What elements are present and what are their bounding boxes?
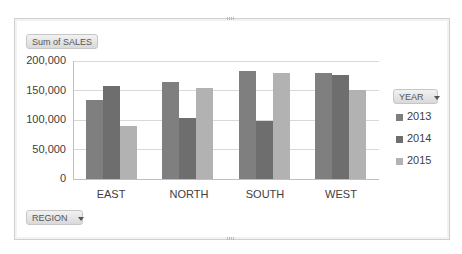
legend-swatch-icon xyxy=(396,136,403,143)
dropdown-arrow-icon xyxy=(78,217,84,221)
legend-item-2013: 2013 xyxy=(396,110,431,122)
x-label-south: SOUTH xyxy=(230,188,300,200)
bar-south-2013[interactable] xyxy=(239,71,256,179)
axis-field-label: REGION xyxy=(32,213,68,223)
values-field-label: Sum of SALES xyxy=(32,37,92,47)
plot-area xyxy=(73,61,379,179)
legend-swatch-icon xyxy=(396,114,403,121)
resize-handle-bottom[interactable] xyxy=(227,237,235,240)
y-tick-100000: 100,000 xyxy=(6,113,66,125)
bar-north-2015[interactable] xyxy=(196,88,213,179)
axis-field-button[interactable]: REGION xyxy=(26,210,83,225)
x-axis-line xyxy=(73,179,379,180)
bar-west-2015[interactable] xyxy=(349,90,366,179)
legend-field-button[interactable]: YEAR xyxy=(393,89,438,104)
x-label-east: EAST xyxy=(76,188,146,200)
y-tick-0: 0 xyxy=(6,172,66,184)
bar-north-2013[interactable] xyxy=(162,82,179,179)
resize-handle-top[interactable] xyxy=(227,17,235,20)
legend-field-label: YEAR xyxy=(399,92,424,102)
bar-east-2015[interactable] xyxy=(120,126,137,179)
y-tick-150000: 150,000 xyxy=(6,84,66,96)
bar-north-2014[interactable] xyxy=(179,118,196,179)
bar-east-2014[interactable] xyxy=(103,86,120,179)
x-label-north: NORTH xyxy=(154,188,224,200)
bar-east-2013[interactable] xyxy=(86,100,103,179)
values-field-button[interactable]: Sum of SALES xyxy=(26,34,98,49)
bar-south-2015[interactable] xyxy=(273,73,290,179)
x-label-west: WEST xyxy=(306,188,376,200)
legend-item-2015: 2015 xyxy=(396,154,431,166)
y-tick-50000: 50,000 xyxy=(6,143,66,155)
bar-west-2013[interactable] xyxy=(315,73,332,179)
dropdown-arrow-icon xyxy=(434,96,440,100)
y-tick-200000: 200,000 xyxy=(6,54,66,66)
bar-south-2014[interactable] xyxy=(256,121,273,179)
bar-west-2014[interactable] xyxy=(332,75,349,179)
legend-item-2014: 2014 xyxy=(396,132,431,144)
legend-swatch-icon xyxy=(396,158,403,165)
